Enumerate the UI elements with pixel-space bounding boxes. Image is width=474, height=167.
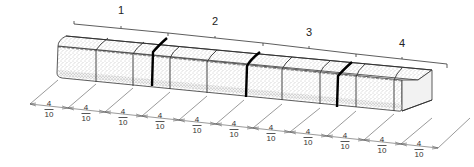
- dimension-label: 410: [230, 120, 239, 139]
- dimension-label: 410: [45, 100, 54, 119]
- group-label-3: 3: [306, 26, 312, 38]
- dimension-label: 410: [378, 136, 387, 155]
- group-label-1: 1: [118, 4, 124, 16]
- group-label-2: 2: [212, 15, 218, 27]
- group-label-4: 4: [399, 37, 405, 49]
- dimension-label: 410: [341, 132, 350, 151]
- dimension-label: 410: [415, 140, 424, 159]
- dimension-label: 410: [82, 104, 91, 123]
- block-row-drawing: [0, 0, 474, 167]
- dimension-label: 410: [156, 112, 165, 131]
- dimension-label: 410: [304, 128, 313, 147]
- dimension-label: 410: [119, 108, 128, 127]
- dimension-label: 410: [193, 116, 202, 135]
- block-row-diagram: 1 2 3 4 410 410 410 410 410 410 410 410 …: [0, 0, 474, 167]
- dimension-label: 410: [267, 124, 276, 143]
